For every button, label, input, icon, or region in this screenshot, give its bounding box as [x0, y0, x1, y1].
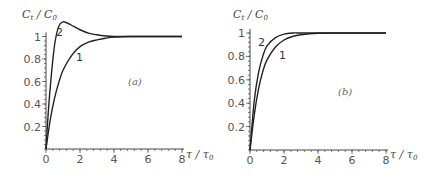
y-tick-label: 0.2	[24, 121, 42, 134]
y-tick-label: 0.6	[24, 76, 42, 89]
x-tick-label: 6	[349, 154, 356, 167]
y-tick-label: 0.8	[228, 50, 246, 63]
x-tick-label: 0	[247, 154, 254, 167]
curve-2	[250, 33, 386, 150]
y-tick-label: 0.4	[228, 97, 246, 110]
x-axis-title-a: τ / τ0	[186, 148, 214, 162]
curve-label-1-a: 1	[76, 51, 83, 64]
y-tick-label: 0.8	[24, 53, 42, 66]
x-axis-title-b: τ / τ0	[390, 148, 418, 162]
axes-b: 024680.20.40.60.81	[228, 27, 390, 167]
y-tick-label: 0.2	[228, 121, 246, 134]
curve-1	[46, 36, 182, 149]
y-tick-label: 1	[238, 27, 245, 40]
x-tick-label: 4	[315, 154, 322, 167]
panel-b: Ct / C0 024680.20.40.60.81 2 1 (b) τ / τ…	[228, 8, 418, 167]
curve-1	[250, 33, 386, 150]
x-tick-label: 0	[43, 153, 50, 166]
x-tick-label: 6	[145, 153, 152, 166]
curve-label-2-b: 2	[258, 36, 265, 49]
y-tick-label: 0.4	[24, 98, 42, 111]
y-axis-title-b: Ct / C0	[233, 8, 268, 22]
x-tick-label: 2	[281, 154, 288, 167]
curves-a	[46, 22, 182, 149]
curves-b	[250, 33, 386, 150]
panel-a: Ct / C0 024680.20.40.60.81 2 1 (a) τ / τ…	[22, 8, 214, 166]
y-axis-title-a: Ct / C0	[22, 8, 57, 22]
chart-figure: Ct / C0 024680.20.40.60.81 2 1 (a) τ / τ…	[0, 0, 432, 176]
axes-a: 024680.20.40.60.81	[24, 31, 186, 167]
curve-2	[46, 22, 182, 149]
curve-label-2-a: 2	[56, 26, 63, 39]
x-tick-label: 4	[111, 153, 118, 166]
curve-label-1-b: 1	[279, 49, 286, 62]
panel-label-b: (b)	[338, 86, 352, 97]
x-tick-label: 8	[179, 153, 186, 166]
x-tick-label: 2	[77, 153, 84, 166]
y-tick-label: 1	[34, 31, 41, 44]
panel-label-a: (a)	[128, 76, 142, 87]
x-tick-label: 8	[383, 154, 390, 167]
y-tick-label: 0.6	[228, 74, 246, 87]
